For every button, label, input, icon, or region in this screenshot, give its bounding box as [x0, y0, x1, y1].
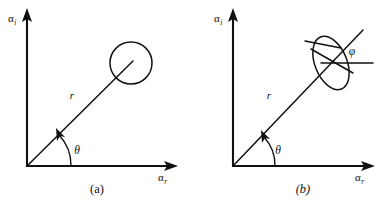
panel-b-y-axis	[228, 8, 238, 166]
panel-a-x-axis	[27, 161, 178, 171]
panel-b-x-axis-label: αr	[355, 171, 364, 186]
panel-a-y-axis	[22, 8, 32, 166]
panel-b: αi αr r θ φ (b)	[214, 8, 375, 196]
panel-b-y-axis-label-base: α	[214, 12, 220, 24]
panel-a-x-axis-label: αr	[158, 171, 167, 186]
panel-b-x-axis-label-sub: r	[361, 177, 364, 186]
panel-b-theta-label: θ	[275, 144, 281, 156]
panel-a-theta-arc	[59, 135, 71, 166]
panel-b-x-axis-label-base: α	[355, 171, 361, 183]
panel-a-y-axis-label-sub: i	[14, 18, 16, 27]
panel-b-r-vector-line	[233, 30, 363, 166]
panel-b-phi-label: φ	[349, 45, 356, 58]
panel-b-x-axis	[233, 161, 375, 171]
panel-a: αi αr r θ (a)	[8, 8, 178, 196]
figure-canvas: αi αr r θ (a)	[0, 0, 391, 200]
panel-a-x-axis-label-sub: r	[164, 177, 167, 186]
panel-a-x-axis-label-base: α	[158, 171, 164, 183]
panel-a-y-axis-label: αi	[8, 12, 16, 27]
panel-a-r-label: r	[70, 89, 75, 101]
panel-b-y-axis-label: αi	[214, 12, 222, 27]
panel-a-caption: (a)	[90, 182, 104, 196]
panel-b-r-label: r	[267, 89, 272, 101]
panel-b-caption: (b)	[296, 182, 311, 196]
panel-a-r-vector-line	[27, 61, 133, 166]
figure-root: αi αr r θ (a)	[0, 0, 391, 200]
panel-b-y-axis-label-sub: i	[220, 18, 222, 27]
panel-b-theta-arc	[264, 137, 275, 166]
panel-a-theta-label: θ	[74, 144, 80, 156]
panel-a-y-axis-label-base: α	[8, 12, 14, 24]
